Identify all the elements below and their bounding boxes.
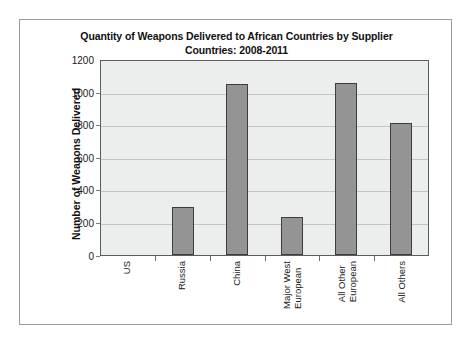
bar-china[interactable] bbox=[226, 84, 248, 255]
bar-slot bbox=[156, 61, 211, 255]
y-tick-label: 800 bbox=[52, 120, 94, 131]
y-tick-label: 1000 bbox=[52, 87, 94, 98]
chart-title-line-1: Quantity of Weapons Delivered to African… bbox=[20, 29, 453, 43]
bar-slot bbox=[374, 61, 429, 255]
x-label-all-others: All Others bbox=[396, 261, 407, 303]
x-label-line: US bbox=[122, 261, 133, 274]
y-tick-label: 0 bbox=[52, 250, 94, 261]
bar-all-others[interactable] bbox=[390, 123, 412, 255]
y-tick-label: 1200 bbox=[52, 55, 94, 66]
x-label-slot: US bbox=[100, 261, 155, 323]
bar-russia[interactable] bbox=[172, 207, 194, 256]
y-axis-tick-labels: 1200 1000 800 600 400 200 0 bbox=[52, 60, 94, 256]
x-label-line: Major West bbox=[281, 261, 292, 309]
x-label-slot: All Others bbox=[374, 261, 429, 323]
plot-area bbox=[100, 60, 429, 256]
bar-slot bbox=[210, 61, 265, 255]
x-label-line: All Other bbox=[336, 261, 347, 302]
bar-group bbox=[101, 61, 428, 255]
x-label-china: China bbox=[232, 261, 243, 286]
x-label-all-other-european: All Other European bbox=[336, 261, 357, 302]
chart-figure: Quantity of Weapons Delivered to African… bbox=[19, 19, 452, 325]
x-label-line: European bbox=[347, 261, 358, 302]
x-label-russia: Russia bbox=[177, 261, 188, 290]
bar-slot bbox=[265, 61, 320, 255]
bar-all-other-european[interactable] bbox=[335, 83, 357, 255]
bar-slot bbox=[101, 61, 156, 255]
x-label-line: All Others bbox=[396, 261, 407, 303]
x-label-slot: Major West European bbox=[264, 261, 319, 323]
y-tick-label: 400 bbox=[52, 185, 94, 196]
x-label-slot: All Other European bbox=[319, 261, 374, 323]
x-label-line: European bbox=[292, 261, 303, 309]
x-label-major-west-european: Major West European bbox=[281, 261, 302, 309]
bar-major-west-european[interactable] bbox=[281, 217, 303, 255]
x-label-us: US bbox=[122, 261, 133, 274]
bar-slot bbox=[319, 61, 374, 255]
x-label-slot: China bbox=[210, 261, 265, 323]
y-tick-label: 600 bbox=[52, 152, 94, 163]
x-label-line: China bbox=[232, 261, 243, 286]
y-tick-label: 200 bbox=[52, 217, 94, 228]
x-axis-labels: US Russia China Major West European All … bbox=[100, 261, 429, 323]
chart-title: Quantity of Weapons Delivered to African… bbox=[20, 29, 453, 57]
x-label-slot: Russia bbox=[155, 261, 210, 323]
x-label-line: Russia bbox=[177, 261, 188, 290]
